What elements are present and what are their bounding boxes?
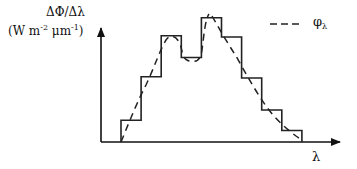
unit-part: μm bbox=[48, 24, 71, 38]
legend-label: φλ bbox=[313, 14, 327, 31]
y-axis-label-text: ΔΦ/Δλ bbox=[46, 5, 85, 19]
legend-subscript: λ bbox=[322, 22, 327, 31]
histogram-outline bbox=[121, 18, 302, 142]
y-axis-label: ΔΦ/Δλ bbox=[46, 5, 85, 19]
x-axis-label: λ bbox=[312, 149, 320, 164]
unit-part: (W m bbox=[8, 24, 40, 38]
y-axis-unit: (W m-2 μm-1) bbox=[8, 23, 84, 38]
unit-exponent: -2 bbox=[40, 23, 48, 32]
histogram-steps bbox=[121, 18, 302, 142]
unit-exponent: -1 bbox=[71, 23, 79, 32]
unit-part: ) bbox=[79, 24, 84, 38]
legend-symbol: φ bbox=[313, 14, 322, 29]
phi-lambda-curve bbox=[121, 14, 302, 142]
